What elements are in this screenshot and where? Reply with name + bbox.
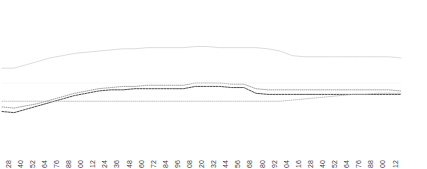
x-tick-label: 00	[77, 160, 84, 168]
x-tick-label: 92	[271, 160, 278, 168]
x-tick-label: 60	[138, 160, 145, 168]
x-tick-label: 48	[126, 160, 133, 168]
x-axis-tick-labels: 1628405264768800122436486072849608203244…	[0, 148, 427, 169]
line-chart: 1628405264768800122436486072849608203244…	[0, 0, 427, 169]
x-tick-label: 64	[343, 160, 350, 168]
x-tick-label: 68	[246, 160, 253, 168]
x-tick-label: 84	[162, 160, 169, 168]
x-tick-label: 24	[101, 160, 108, 168]
x-tick-label: 88	[367, 160, 374, 168]
plot-svg	[0, 0, 427, 148]
x-tick-label: 36	[113, 160, 120, 168]
x-tick-label: 76	[53, 160, 60, 168]
x-tick-label: 96	[174, 160, 181, 168]
x-tick-label: 52	[331, 160, 338, 168]
x-tick-label: 00	[379, 160, 386, 168]
x-tick-label: 28	[5, 160, 12, 168]
plot-area	[0, 0, 427, 148]
x-tick-label: 12	[89, 160, 96, 168]
x-tick-label: 40	[319, 160, 326, 168]
x-tick-label: 52	[29, 160, 36, 168]
series-line-cluster-middle	[2, 86, 401, 112]
x-tick-label: 88	[65, 160, 72, 168]
x-tick-label: 56	[234, 160, 241, 168]
x-tick-label: 72	[150, 160, 157, 168]
x-tick-label: 12	[392, 160, 399, 168]
x-tick-label: 76	[355, 160, 362, 168]
x-tick-label: 16	[295, 160, 302, 168]
x-tick-label: 44	[222, 160, 229, 168]
x-tick-label: 32	[210, 160, 217, 168]
x-tick-label: 04	[283, 160, 290, 168]
series-line-upper-band	[2, 47, 401, 69]
x-tick-label: 80	[259, 160, 266, 168]
x-tick-label: 08	[186, 160, 193, 168]
x-tick-label: 20	[198, 160, 205, 168]
x-tick-label: 64	[41, 160, 48, 168]
x-tick-label: 40	[17, 160, 24, 168]
x-tick-label: 28	[307, 160, 314, 168]
